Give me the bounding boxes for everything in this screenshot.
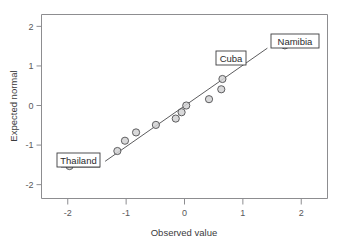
data-point-marker: [183, 102, 190, 109]
x-tick-label: -2: [64, 208, 72, 218]
data-point-marker: [178, 109, 185, 116]
x-axis-title: Observed value: [151, 227, 218, 238]
data-point-marker: [121, 137, 128, 144]
data-point-marker: [219, 75, 226, 82]
y-tick-label: -2: [25, 180, 33, 190]
x-tick-label: 2: [299, 208, 304, 218]
data-point-marker: [172, 115, 179, 122]
x-tick-label: 0: [182, 208, 187, 218]
data-point-marker: [152, 121, 159, 128]
x-tick-label: 1: [240, 208, 245, 218]
annotation-label: Thailand: [60, 155, 96, 166]
data-point-marker: [218, 86, 225, 93]
data-point-marker: [132, 129, 139, 136]
y-tick-label: -1: [25, 140, 33, 150]
annotation-label: Cuba: [220, 53, 243, 64]
qq-plot-canvas: 210-1-2 -2-1012 ThailandCubaNamibia Obse…: [0, 0, 337, 243]
y-tick-label: 2: [28, 22, 33, 32]
data-point-marker: [114, 147, 121, 154]
y-axis-title: Expected normal: [8, 70, 19, 141]
y-tick-label: 0: [28, 101, 33, 111]
qq-plot-figure: 210-1-2 -2-1012 ThailandCubaNamibia Obse…: [0, 0, 337, 243]
data-point-marker: [205, 96, 212, 103]
annotation-label: Namibia: [278, 36, 314, 47]
y-tick-label: 1: [28, 61, 33, 71]
x-tick-label: -1: [122, 208, 130, 218]
